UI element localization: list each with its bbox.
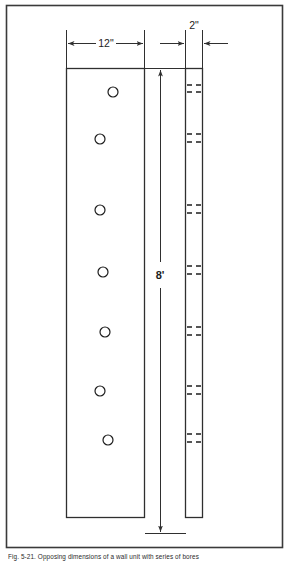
technical-drawing: 12" 2" bbox=[0, 0, 289, 567]
figure-caption: Fig. 5-21. Opposing dimensions of a wall… bbox=[8, 553, 286, 561]
height-dimension-label: 8' bbox=[156, 269, 165, 281]
width-dimension-label: 12" bbox=[98, 37, 114, 49]
figure-container: 12" 2" bbox=[0, 0, 289, 567]
wall-unit-edge-view bbox=[186, 69, 203, 518]
thickness-dimension-label: 2" bbox=[189, 19, 199, 31]
wall-unit-front-view bbox=[67, 69, 145, 518]
